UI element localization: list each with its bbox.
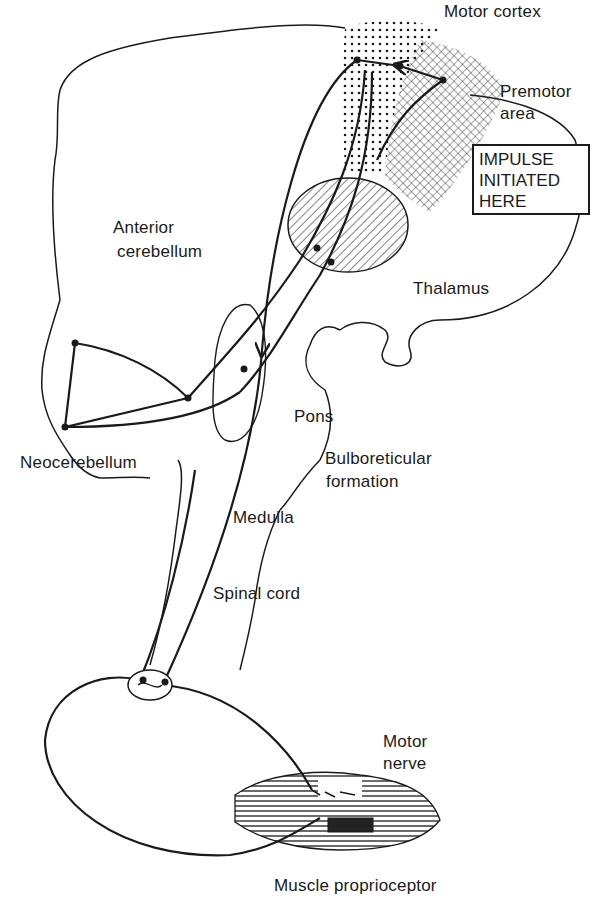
motor-endplate	[318, 778, 362, 798]
label-muscle-proprioceptor: Muscle proprioceptor	[274, 876, 437, 896]
bulboreticular-region	[213, 304, 266, 441]
label-bulboreticular-2: formation	[326, 472, 399, 492]
label-premotor-area-2: area	[500, 104, 535, 124]
label-medulla: Medulla	[233, 508, 294, 528]
label-neocerebellum: Neocerebellum	[20, 453, 137, 473]
label-anterior-cerebellum-1: Anterior	[113, 218, 174, 238]
label-motor-cortex: Motor cortex	[444, 2, 541, 22]
impulse-box-line-2: INITIATED	[479, 170, 588, 191]
label-premotor-area-1: Premotor	[500, 82, 572, 102]
proprioceptor-spindle	[328, 818, 373, 832]
label-spinal-cord: Spinal cord	[213, 584, 300, 604]
label-pons: Pons	[294, 407, 334, 427]
impulse-box-line-1: IMPULSE	[479, 149, 588, 170]
label-bulboreticular-1: Bulboreticular	[325, 449, 432, 469]
thalamus-region	[288, 178, 408, 272]
label-motor-nerve-2: nerve	[383, 754, 427, 774]
label-anterior-cerebellum-2: cerebellum	[117, 242, 202, 262]
impulse-box-line-3: HERE	[479, 191, 588, 212]
impulse-initiated-box: IMPULSE INITIATED HERE	[472, 144, 590, 215]
label-motor-nerve-1: Motor	[383, 732, 427, 752]
label-thalamus: Thalamus	[413, 279, 489, 299]
